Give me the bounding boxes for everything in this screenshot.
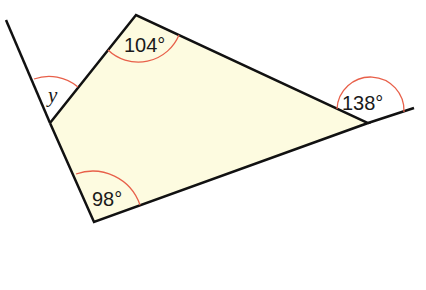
- angle-label-top: 104°: [124, 34, 165, 56]
- extension-line-left: [6, 20, 50, 123]
- angle-label-right: 138°: [342, 92, 383, 114]
- quadrilateral-diagram: 104° 98° 138° y: [0, 0, 426, 290]
- angle-label-left: y: [46, 83, 58, 107]
- angle-label-bottom: 98°: [92, 188, 122, 210]
